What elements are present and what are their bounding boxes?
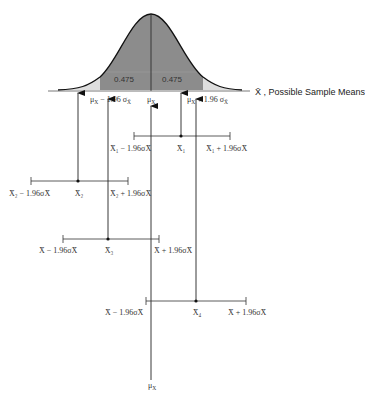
interval-x3: X̄ − 1.96σX̄ X̄₃ X̄ + 1.96σX̄ [39,99,193,255]
sample-mean-dot [194,299,197,302]
area-label-right: 0.475 [162,75,183,84]
interval-lower-label: X̄ − 1.96σX̄ [39,246,78,255]
right-tail-area [203,10,243,91]
shaded-areas [58,10,243,91]
interval-lower-label: X̄ − 1.96σX̄ [105,308,144,317]
interval-lower-label: X̄₁ − 1.96σX̄ [110,144,151,153]
interval-mean-label: X̄₄ [193,308,202,317]
interval-x4: X̄ − 1.96σX̄ X̄₄ X̄ + 1.96σX̄ [105,99,267,317]
interval-mean-label: X̄₃ [105,246,114,255]
left-tail-area [58,10,100,91]
interval-lower-label: X̄₂ − 1.96σX̄ [9,189,50,198]
lower-bound-label: μX − 1.96 σX̄ [90,95,131,105]
confidence-interval-diagram: 0.475 0.475 μX − 1.96 σX̄ μX μX + 1.96 σ… [0,0,365,394]
sample-mean-dot [179,134,182,137]
interval-upper-label: X̄₁ + 1.96σX̄ [206,144,247,153]
mean-label: μX [147,95,155,105]
interval-mean-label: X̄₂ [75,189,84,198]
interval-mean-label: X̄₁ [177,144,186,153]
area-label-left: 0.475 [114,75,135,84]
axis-title: X̄ , Possible Sample Means [255,87,365,97]
bottom-mu-label: μX [148,381,156,391]
sample-mean-dot [76,179,79,182]
interval-upper-label: X̄₂ + 1.96σX̄ [110,189,151,198]
interval-upper-label: X̄ + 1.96σX̄ [154,246,193,255]
interval-upper-label: X̄ + 1.96σX̄ [228,308,267,317]
upper-bound-label: μX + 1.96 σX̄ [187,95,228,105]
sample-mean-dot [106,237,109,240]
